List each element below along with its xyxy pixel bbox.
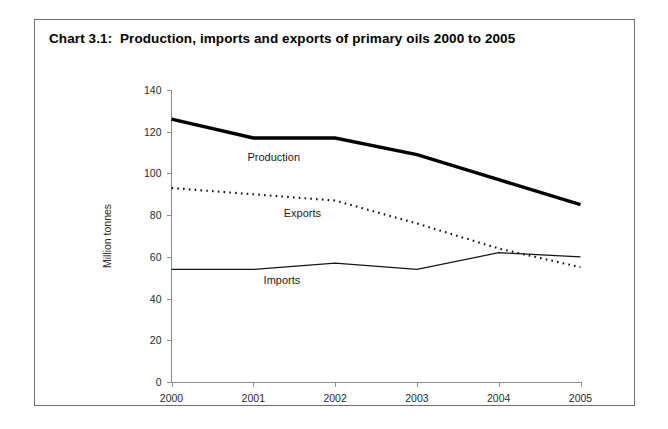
y-tick-group: 020406080100120140 <box>144 84 172 388</box>
y-tick-label: 0 <box>156 376 162 388</box>
series-inline-label: Exports <box>284 207 322 219</box>
y-axis: 020406080100120140 Million tonnes <box>101 84 172 388</box>
y-tick-label: 40 <box>150 293 162 305</box>
y-tick-label: 120 <box>144 126 162 138</box>
x-tick-label: 2005 <box>569 392 593 404</box>
x-tick-label: 2000 <box>160 392 184 404</box>
x-axis: 200020012002200320042005 <box>160 382 593 404</box>
series-line-exports <box>172 188 581 267</box>
y-tick-label: 140 <box>144 84 162 96</box>
series-inline-label: Imports <box>264 274 301 286</box>
series-line-imports <box>172 253 581 270</box>
series-inline-label: Production <box>247 151 300 163</box>
series-label-group: ProductionExportsImports <box>247 151 321 286</box>
y-tick-label: 60 <box>150 251 162 263</box>
x-tick-label: 2001 <box>242 392 266 404</box>
x-tick-label: 2002 <box>323 392 347 404</box>
x-tick-group: 200020012002200320042005 <box>160 382 593 404</box>
chart-card: Chart 3.1: Production, imports and expor… <box>34 19 635 406</box>
x-tick-label: 2004 <box>487 392 511 404</box>
y-tick-label: 100 <box>144 167 162 179</box>
x-tick-label: 2003 <box>405 392 429 404</box>
line-chart: 020406080100120140 Million tonnes 200020… <box>35 20 636 407</box>
series-group <box>172 119 581 269</box>
series-line-production <box>172 119 581 205</box>
y-tick-label: 20 <box>150 334 162 346</box>
y-axis-title: Million tonnes <box>101 204 113 268</box>
y-tick-label: 80 <box>150 209 162 221</box>
